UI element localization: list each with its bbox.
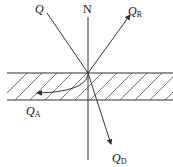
label-normal: N — [83, 3, 92, 15]
incident-ray — [47, 13, 88, 73]
label-reflected: QR — [128, 5, 142, 19]
diagram-svg — [0, 0, 173, 167]
transmitted-ray — [88, 73, 111, 144]
radiation-diagram: Q N QR QA QD — [0, 0, 173, 167]
medium-hatch — [0, 73, 173, 100]
label-transmitted: QD — [112, 152, 126, 166]
reflected-ray — [88, 15, 130, 73]
label-incident: Q — [35, 3, 44, 15]
label-absorbed: QA — [26, 105, 40, 119]
absorbed-arrow — [37, 75, 88, 93]
